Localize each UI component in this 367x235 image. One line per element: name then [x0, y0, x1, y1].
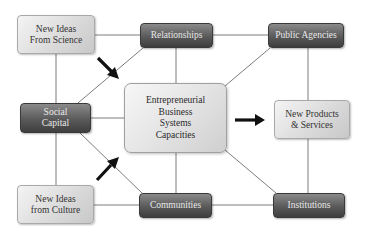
node-label: Public Agencies	[275, 30, 336, 41]
node-label-line: Capital	[42, 118, 69, 129]
node-label-line: Social	[42, 107, 69, 118]
node-communities: Communities	[139, 193, 212, 218]
node-label-line: Business	[146, 107, 205, 119]
node-label: Institutions	[288, 200, 331, 211]
node-institutions: Institutions	[273, 193, 345, 218]
node-label-line: Capacities	[146, 130, 205, 142]
arrow-down-right-icon	[98, 58, 119, 79]
node-label-line: Entrepreneurial	[146, 95, 205, 107]
node-relationships: Relationships	[140, 23, 213, 48]
arrow-right-icon	[235, 114, 265, 126]
node-entrepreneurial-business-systems-capacities: Entrepreneurial Business Systems Capacit…	[124, 83, 227, 153]
node-social-capital: Social Capital	[20, 103, 91, 133]
node-new-products-services: New Products & Services	[274, 100, 350, 139]
node-label: Communities	[150, 200, 201, 211]
node-label-line: Systems	[146, 118, 205, 130]
node-new-ideas-from-culture: New Ideas from Culture	[17, 185, 94, 224]
node-new-ideas-from-science: New Ideas From Science	[17, 15, 95, 54]
node-label-line: from Culture	[31, 205, 80, 216]
node-public-agencies: Public Agencies	[268, 23, 344, 48]
node-label-line: New Products	[285, 109, 339, 120]
node-label-line: New Ideas	[30, 24, 83, 35]
node-label-line: & Services	[285, 120, 339, 131]
node-label-line: From Science	[30, 35, 83, 46]
node-label-line: New Ideas	[31, 194, 80, 205]
node-label: Relationships	[151, 30, 203, 41]
